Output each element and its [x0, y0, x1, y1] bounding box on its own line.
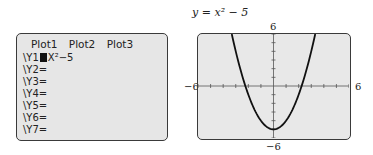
- y5-row[interactable]: \Y5=: [23, 100, 47, 112]
- ymin-label: −6: [266, 141, 281, 152]
- plot3-label[interactable]: Plot3: [107, 38, 133, 50]
- y6-label: \Y6=: [23, 112, 47, 123]
- graph-window: [197, 33, 351, 140]
- y7-label: \Y7=: [23, 124, 47, 135]
- y1-expression[interactable]: X²−5: [48, 52, 74, 63]
- y2-row[interactable]: \Y2=: [23, 64, 47, 76]
- y1-label: \Y1: [23, 52, 39, 63]
- y2-label: \Y2=: [23, 64, 47, 75]
- y5-label: \Y5=: [23, 100, 47, 111]
- graph-title: y = x² − 5: [192, 6, 248, 19]
- parabola-plot: [198, 34, 349, 138]
- plot-row: Plot1 Plot2 Plot3: [31, 38, 141, 50]
- plot1-label[interactable]: Plot1: [31, 38, 57, 50]
- xmax-label: 6: [355, 81, 361, 92]
- equals-cursor-highlight: [40, 53, 47, 62]
- y7-row[interactable]: \Y7=: [23, 124, 47, 136]
- plot2-label[interactable]: Plot2: [69, 38, 95, 50]
- y3-row[interactable]: \Y3=: [23, 76, 47, 88]
- y3-label: \Y3=: [23, 76, 47, 87]
- y4-label: \Y4=: [23, 88, 47, 99]
- ymax-label: 6: [270, 21, 276, 32]
- y4-row[interactable]: \Y4=: [23, 88, 47, 100]
- y6-row[interactable]: \Y6=: [23, 112, 47, 124]
- y1-row[interactable]: \Y1X²−5: [23, 52, 73, 64]
- y-editor-screen: Plot1 Plot2 Plot3 \Y1X²−5 \Y2= \Y3= \Y4=…: [16, 33, 168, 141]
